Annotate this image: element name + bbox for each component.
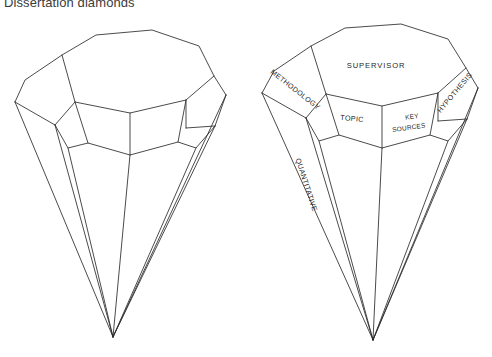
blank-pavilion-edge-2 (55, 125, 113, 337)
blank-pavilion-edge-3 (68, 148, 113, 337)
label-supervisor: SUPERVISOR (347, 61, 406, 70)
labelled-pavilion-edge-5 (373, 141, 448, 340)
blank-pavilion-edge-6 (113, 126, 215, 337)
blank-pavilion-edge-5 (113, 148, 196, 337)
label-quantitative: QUANTITATIVE (294, 157, 320, 213)
labelled-pavilion-edge-3 (319, 141, 373, 340)
blank-diamond (15, 30, 226, 337)
labelled-diamond: SUPERVISOR METHODOLOGY TOPIC KEY SOURCES… (262, 24, 478, 340)
dissertation-diamonds-diagram: SUPERVISOR METHODOLOGY TOPIC KEY SOURCES… (0, 0, 492, 357)
labelled-pavilion-edge-2 (306, 118, 373, 340)
blank-pavilion-edge-4 (113, 155, 130, 337)
labelled-pavilion-edge-4 (373, 148, 382, 340)
